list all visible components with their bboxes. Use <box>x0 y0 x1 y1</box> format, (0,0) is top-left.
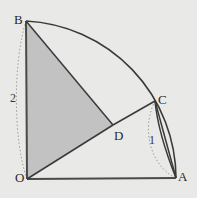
vertex-label-O: O <box>15 171 24 184</box>
segment-OB <box>26 21 27 179</box>
segment-OA <box>27 178 176 179</box>
geometry-canvas <box>0 0 197 198</box>
segment-DC <box>113 101 155 125</box>
vertex-label-A: A <box>178 170 187 183</box>
geometry-figure: B O A C D 2 1 <box>0 0 197 198</box>
shaded-triangle-OBD <box>26 21 113 179</box>
vertex-label-B: B <box>14 13 23 26</box>
length-label-radius-1: 1 <box>149 134 155 146</box>
length-label-radius-2: 2 <box>10 92 16 104</box>
vertex-label-D: D <box>114 129 123 142</box>
segment-CA <box>155 101 176 178</box>
vertex-label-C: C <box>158 93 167 106</box>
